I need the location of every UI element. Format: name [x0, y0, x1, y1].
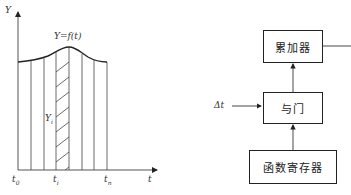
- tick-tn: tn: [104, 174, 112, 186]
- function-register-block: 函数寄存器: [249, 150, 337, 184]
- function-curve: [18, 47, 107, 62]
- axes: [18, 12, 157, 170]
- y-axis-label: Y: [5, 5, 11, 15]
- and-gate-block: 与门: [263, 92, 323, 124]
- delta-t-label: Δt: [214, 100, 224, 110]
- tick-t0: t0: [12, 174, 19, 186]
- strip-label: Yi: [45, 113, 53, 125]
- integration-strips: [31, 47, 107, 170]
- curve-label: Y=f(t): [54, 31, 81, 41]
- x-axis-label: t: [148, 174, 152, 184]
- accumulator-block: 累加器: [263, 30, 323, 63]
- hatched-strip: [56, 62, 69, 177]
- tick-ti: ti: [53, 174, 59, 186]
